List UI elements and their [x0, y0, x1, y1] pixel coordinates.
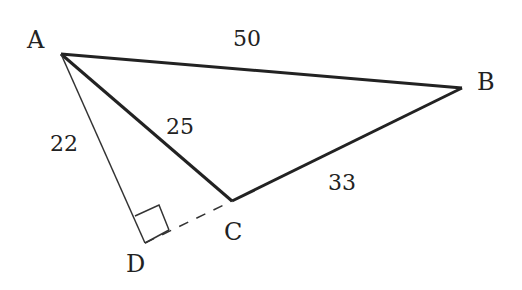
length-label-bc: 33 [328, 172, 356, 194]
triangle-diagram: A B C D 50 25 33 22 [0, 0, 522, 290]
diagram-lines [0, 0, 522, 290]
right-angle-marker [135, 205, 169, 230]
length-label-ab: 50 [233, 28, 261, 50]
segment-ab [61, 54, 462, 88]
point-label-d: D [126, 252, 145, 276]
right-angle-base [145, 230, 169, 243]
length-label-ac: 25 [166, 116, 194, 138]
point-label-b: B [477, 70, 495, 94]
segment-ac [61, 54, 232, 201]
point-label-c: C [224, 220, 242, 244]
point-label-a: A [27, 28, 44, 52]
length-label-ad: 22 [50, 133, 78, 155]
